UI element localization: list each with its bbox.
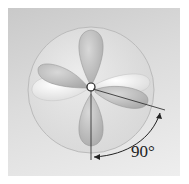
arrowhead-left-icon <box>94 154 100 160</box>
carbon-atom <box>87 83 95 91</box>
arrowhead-right-icon <box>156 113 162 119</box>
angle-label: 90° <box>131 142 155 162</box>
orbital-diagram <box>0 0 189 184</box>
